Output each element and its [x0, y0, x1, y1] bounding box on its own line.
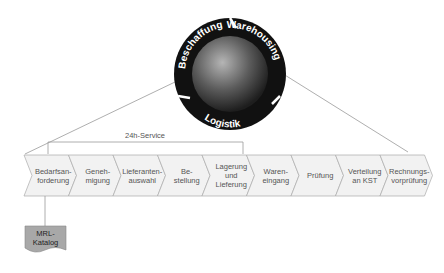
- document-label: MRL- Katalog: [25, 229, 66, 247]
- process-step-label: Geneh- migung: [77, 167, 120, 185]
- process-step-label: Waren- eingang: [255, 167, 298, 185]
- process-step-label: Rechnungs- vorprüfung: [388, 167, 431, 185]
- process-step-label: Lieferanten- auswahl: [121, 167, 164, 185]
- process-step-label: Lagerung und Lieferung: [210, 162, 253, 189]
- process-step-label: Be- stellung: [166, 167, 209, 185]
- diagram-canvas: Beschaffung Warehousing Logistik: [0, 0, 444, 273]
- process-step-label: Prüfung: [299, 171, 342, 180]
- sphere: [192, 36, 268, 112]
- connector-line-left: [25, 82, 175, 154]
- process-step-label: Verteilung an KST: [344, 167, 387, 185]
- process-step-label: Bedarfsan- forderung: [32, 167, 75, 185]
- connector-line-right: [280, 72, 408, 152]
- service-label: 24h-Service: [125, 131, 165, 140]
- service-bracket: [48, 142, 243, 154]
